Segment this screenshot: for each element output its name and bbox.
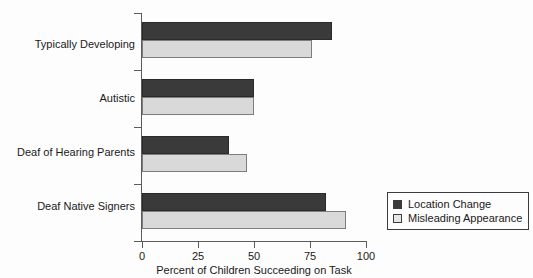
x-axis-tick — [310, 242, 311, 248]
x-axis-tick-label: 50 — [248, 250, 260, 262]
dark-square-swatch-icon — [393, 200, 402, 209]
bar-deaf-of-hearing-parents-location-change — [142, 136, 229, 154]
x-axis-tick — [366, 242, 367, 248]
category-label-deaf-native-signers: Deaf Native Signers — [37, 200, 135, 212]
y-axis-tick — [134, 127, 142, 128]
category-label-autistic: Autistic — [100, 92, 135, 104]
bar-deaf-native-signers-location-change — [142, 193, 326, 211]
y-axis-tick — [134, 13, 142, 14]
legend-item-misleading-appearance[interactable]: Misleading Appearance — [393, 211, 522, 225]
x-axis-tick — [142, 242, 143, 248]
bar-typically-developing-location-change — [142, 22, 332, 40]
bar-autistic-location-change — [142, 79, 254, 97]
chart-legend: Location Change Misleading Appearance — [387, 192, 529, 230]
x-axis-tick-label: 75 — [304, 250, 316, 262]
bar-chart: Typically Developing Autistic Deaf of He… — [0, 0, 533, 278]
x-axis-tick — [254, 242, 255, 248]
light-square-swatch-icon — [393, 214, 402, 223]
bars-layer — [142, 13, 366, 241]
category-label-deaf-of-hearing-parents: Deaf of Hearing Parents — [17, 146, 135, 158]
category-label-typically-developing: Typically Developing — [35, 38, 135, 50]
legend-label-location-change: Location Change — [408, 197, 491, 211]
x-axis-tick-label: 25 — [192, 250, 204, 262]
y-axis-tick — [134, 70, 142, 71]
x-axis-tick-label: 100 — [357, 250, 375, 262]
bar-autistic-misleading-appearance — [142, 97, 254, 115]
y-axis-tick — [134, 184, 142, 185]
y-axis-tick — [134, 241, 142, 242]
legend-item-location-change[interactable]: Location Change — [393, 197, 522, 211]
bar-deaf-native-signers-misleading-appearance — [142, 211, 346, 229]
bar-typically-developing-misleading-appearance — [142, 40, 312, 58]
x-axis-title: Percent of Children Succeeding on Task — [0, 264, 533, 276]
x-axis-tick-label: 0 — [139, 250, 145, 262]
x-axis-title-text: Percent of Children Succeeding on Task — [156, 264, 351, 276]
legend-label-misleading-appearance: Misleading Appearance — [408, 211, 522, 225]
bar-deaf-of-hearing-parents-misleading-appearance — [142, 154, 247, 172]
x-axis-tick — [198, 242, 199, 248]
